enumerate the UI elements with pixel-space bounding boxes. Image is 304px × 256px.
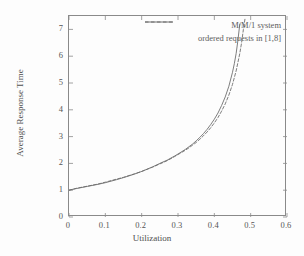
x-tick-label: 0.2 bbox=[135, 220, 146, 230]
legend-label: M/M/1 system bbox=[231, 20, 281, 30]
y-tick-label: 3 bbox=[52, 131, 63, 141]
legend-sample-dashed bbox=[145, 19, 173, 25]
x-tick-label: 0.1 bbox=[99, 220, 110, 230]
chart-legend: M/M/1 system ordered requests in [1,8] bbox=[145, 19, 281, 43]
x-tick-label: 0.4 bbox=[208, 220, 219, 230]
x-tick-label: 0.3 bbox=[172, 220, 183, 230]
series-curves bbox=[69, 16, 287, 217]
chart-figure: Average Response Time M/M/1 system order… bbox=[0, 0, 304, 256]
x-axis-label: Utilization bbox=[0, 233, 304, 243]
y-tick-label: 2 bbox=[52, 157, 63, 167]
y-tick-label: 6 bbox=[52, 50, 63, 60]
y-tick-label: 1 bbox=[52, 184, 63, 194]
legend-label: ordered requests in [1,8] bbox=[198, 33, 281, 43]
y-tick-label: 0 bbox=[52, 211, 63, 221]
x-tick-label: 0.6 bbox=[281, 220, 292, 230]
x-tick-label: 0 bbox=[66, 220, 70, 230]
plot-area: M/M/1 system ordered requests in [1,8] bbox=[68, 15, 286, 216]
y-tick-label: 4 bbox=[52, 104, 63, 114]
y-axis-label: Average Response Time bbox=[15, 33, 25, 193]
x-tick-label: 0.5 bbox=[244, 220, 255, 230]
y-tick-label: 5 bbox=[52, 77, 63, 87]
y-tick-label: 7 bbox=[52, 23, 63, 33]
legend-entry: ordered requests in [1,8] bbox=[145, 32, 281, 43]
